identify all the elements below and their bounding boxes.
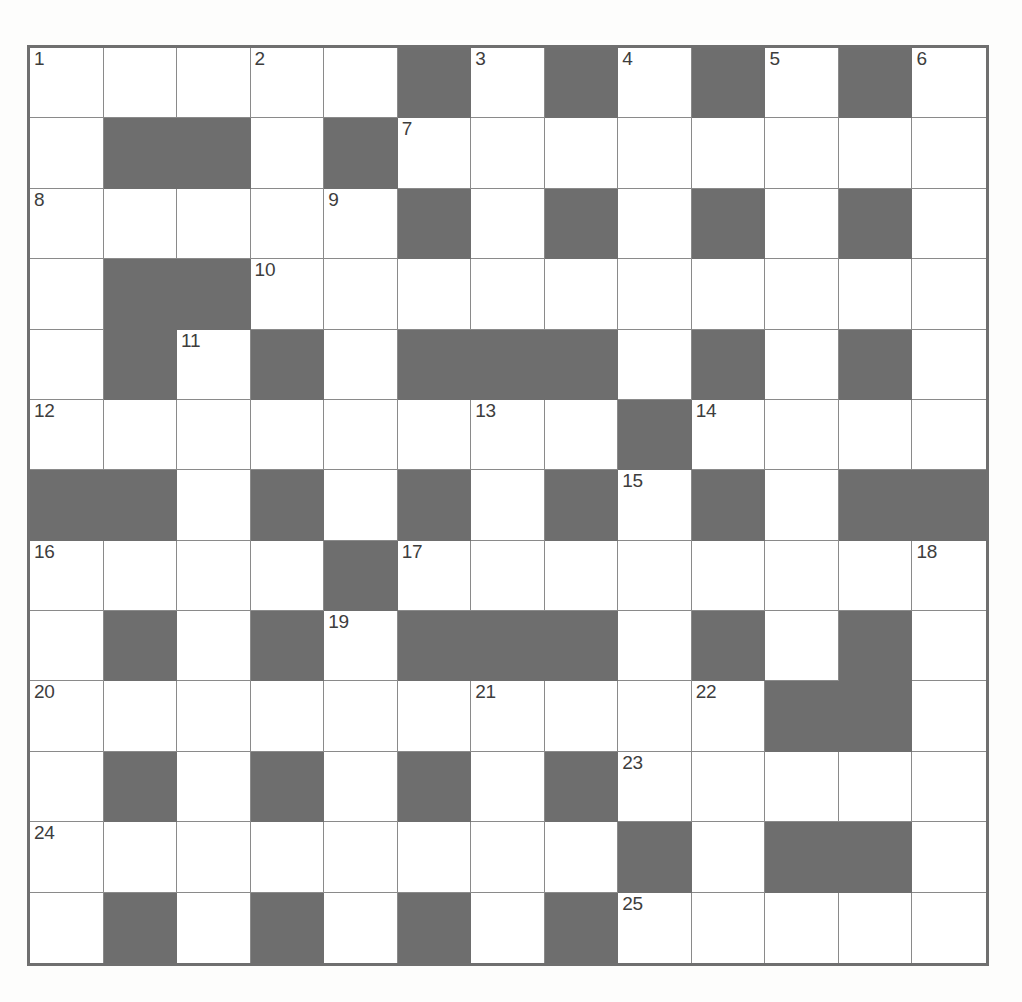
crossword-cell[interactable]: 24 [30, 822, 104, 892]
crossword-cell[interactable] [251, 400, 325, 470]
crossword-cell[interactable] [177, 400, 251, 470]
crossword-cell[interactable] [765, 400, 839, 470]
crossword-cell[interactable]: 22 [692, 681, 766, 751]
crossword-cell[interactable] [618, 611, 692, 681]
crossword-cell[interactable] [912, 893, 986, 963]
crossword-cell[interactable]: 16 [30, 541, 104, 611]
crossword-cell[interactable] [471, 541, 545, 611]
crossword-cell[interactable] [177, 611, 251, 681]
crossword-cell[interactable] [30, 752, 104, 822]
crossword-cell[interactable]: 23 [618, 752, 692, 822]
crossword-cell[interactable] [692, 541, 766, 611]
crossword-cell[interactable] [177, 48, 251, 118]
crossword-cell[interactable] [324, 259, 398, 329]
crossword-cell[interactable] [251, 118, 325, 188]
crossword-cell[interactable]: 7 [398, 118, 472, 188]
crossword-cell[interactable] [618, 118, 692, 188]
crossword-cell[interactable] [251, 822, 325, 892]
crossword-cell[interactable]: 15 [618, 470, 692, 540]
crossword-cell[interactable] [545, 400, 619, 470]
crossword-cell[interactable] [104, 189, 178, 259]
crossword-cell[interactable] [177, 752, 251, 822]
crossword-cell[interactable] [618, 259, 692, 329]
crossword-cell[interactable] [324, 893, 398, 963]
crossword-cell[interactable] [912, 259, 986, 329]
crossword-cell[interactable] [765, 752, 839, 822]
crossword-cell[interactable] [912, 822, 986, 892]
crossword-cell[interactable] [324, 400, 398, 470]
crossword-cell[interactable] [692, 259, 766, 329]
crossword-cell[interactable] [177, 470, 251, 540]
crossword-cell[interactable] [545, 118, 619, 188]
crossword-cell[interactable] [692, 752, 766, 822]
crossword-cell[interactable]: 13 [471, 400, 545, 470]
crossword-cell[interactable]: 11 [177, 330, 251, 400]
crossword-cell[interactable] [104, 400, 178, 470]
crossword-cell[interactable]: 2 [251, 48, 325, 118]
crossword-cell[interactable] [765, 470, 839, 540]
crossword-cell[interactable] [324, 681, 398, 751]
crossword-cell[interactable] [545, 681, 619, 751]
crossword-cell[interactable]: 4 [618, 48, 692, 118]
crossword-cell[interactable] [618, 330, 692, 400]
crossword-cell[interactable] [104, 681, 178, 751]
crossword-cell[interactable] [692, 893, 766, 963]
crossword-cell[interactable] [251, 681, 325, 751]
crossword-cell[interactable]: 5 [765, 48, 839, 118]
crossword-cell[interactable] [324, 48, 398, 118]
crossword-cell[interactable] [765, 330, 839, 400]
crossword-cell[interactable]: 20 [30, 681, 104, 751]
crossword-cell[interactable] [839, 752, 913, 822]
crossword-cell[interactable] [30, 893, 104, 963]
crossword-cell[interactable] [30, 330, 104, 400]
crossword-cell[interactable] [912, 118, 986, 188]
crossword-cell[interactable] [912, 189, 986, 259]
crossword-cell[interactable] [912, 752, 986, 822]
crossword-cell[interactable] [912, 330, 986, 400]
crossword-cell[interactable] [104, 48, 178, 118]
crossword-cell[interactable] [692, 822, 766, 892]
crossword-cell[interactable]: 10 [251, 259, 325, 329]
crossword-cell[interactable]: 9 [324, 189, 398, 259]
crossword-cell[interactable] [398, 822, 472, 892]
crossword-cell[interactable] [30, 259, 104, 329]
crossword-cell[interactable]: 3 [471, 48, 545, 118]
crossword-cell[interactable] [30, 611, 104, 681]
crossword-cell[interactable] [545, 259, 619, 329]
crossword-cell[interactable] [765, 611, 839, 681]
crossword-cell[interactable] [839, 400, 913, 470]
crossword-cell[interactable] [912, 681, 986, 751]
crossword-cell[interactable] [765, 118, 839, 188]
crossword-cell[interactable] [912, 611, 986, 681]
crossword-cell[interactable] [618, 189, 692, 259]
crossword-cell[interactable] [912, 400, 986, 470]
crossword-cell[interactable] [177, 893, 251, 963]
crossword-cell[interactable]: 14 [692, 400, 766, 470]
crossword-cell[interactable] [471, 752, 545, 822]
crossword-cell[interactable] [251, 541, 325, 611]
crossword-cell[interactable] [471, 118, 545, 188]
crossword-grid[interactable]: 1234567891011121314151617181920212223242… [27, 45, 989, 966]
crossword-cell[interactable] [471, 259, 545, 329]
crossword-cell[interactable] [104, 541, 178, 611]
crossword-cell[interactable] [765, 189, 839, 259]
crossword-cell[interactable] [324, 470, 398, 540]
crossword-cell[interactable]: 1 [30, 48, 104, 118]
crossword-cell[interactable] [177, 681, 251, 751]
crossword-cell[interactable]: 8 [30, 189, 104, 259]
crossword-cell[interactable]: 6 [912, 48, 986, 118]
crossword-cell[interactable]: 21 [471, 681, 545, 751]
crossword-cell[interactable] [839, 893, 913, 963]
crossword-cell[interactable] [692, 118, 766, 188]
crossword-cell[interactable] [398, 681, 472, 751]
crossword-cell[interactable] [398, 259, 472, 329]
crossword-cell[interactable] [765, 893, 839, 963]
crossword-cell[interactable] [765, 541, 839, 611]
crossword-cell[interactable] [471, 893, 545, 963]
crossword-cell[interactable] [324, 752, 398, 822]
crossword-cell[interactable] [765, 259, 839, 329]
crossword-cell[interactable] [104, 822, 178, 892]
crossword-cell[interactable] [618, 681, 692, 751]
crossword-cell[interactable]: 18 [912, 541, 986, 611]
crossword-cell[interactable] [839, 118, 913, 188]
